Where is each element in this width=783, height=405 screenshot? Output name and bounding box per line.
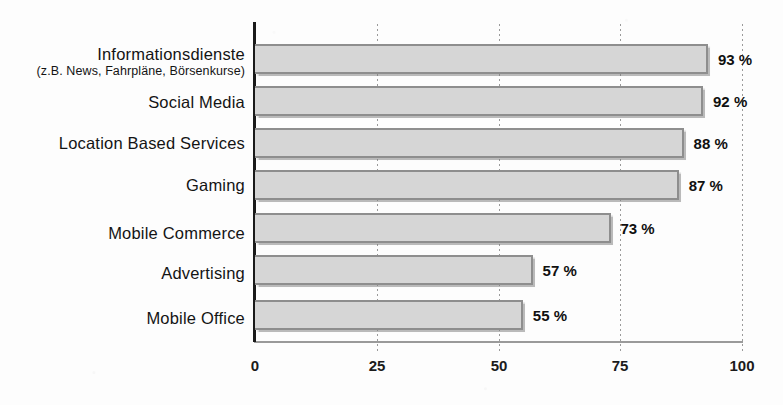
bar-2 xyxy=(255,128,684,158)
bar-value-3: 87 % xyxy=(689,177,723,194)
category-label-1: Social Media xyxy=(148,93,245,111)
xtick-75: 75 xyxy=(612,357,629,374)
bar-value-4: 73 % xyxy=(621,220,655,237)
category-label-6-main: Mobile Office xyxy=(146,309,245,327)
category-label-2-main: Location Based Services xyxy=(59,134,245,152)
bar-4 xyxy=(255,213,611,243)
category-label-0-main: Informationsdienste xyxy=(37,45,245,63)
gridline-100 xyxy=(742,24,743,353)
x-axis-line xyxy=(254,341,743,343)
category-label-0-sub: (z.B. News, Fahrpläne, Börsenkurse) xyxy=(37,64,245,78)
category-label-4-main: Mobile Commerce xyxy=(108,224,245,242)
bar-chart: Informationsdienste (z.B. News, Fahrplän… xyxy=(0,0,783,405)
bar-6 xyxy=(255,300,523,330)
xtick-0: 0 xyxy=(251,357,259,374)
bar-value-5: 57 % xyxy=(543,262,577,279)
xtick-100: 100 xyxy=(729,357,754,374)
category-label-0: Informationsdienste (z.B. News, Fahrplän… xyxy=(37,45,245,78)
bar-value-1: 92 % xyxy=(713,93,747,110)
category-label-6: Mobile Office xyxy=(146,309,245,327)
bar-3 xyxy=(255,170,679,200)
xtick-25: 25 xyxy=(369,357,386,374)
bar-5 xyxy=(255,255,533,285)
bar-value-2: 88 % xyxy=(694,135,728,152)
xtick-50: 50 xyxy=(491,357,508,374)
category-label-5-main: Advertising xyxy=(161,264,245,282)
category-label-5: Advertising xyxy=(161,264,245,282)
bar-value-6: 55 % xyxy=(533,307,567,324)
chart-page: Informationsdienste (z.B. News, Fahrplän… xyxy=(0,0,783,405)
category-label-4: Mobile Commerce xyxy=(108,224,245,242)
category-label-3-main: Gaming xyxy=(186,176,245,194)
bar-1 xyxy=(255,86,703,116)
category-label-2: Location Based Services xyxy=(59,134,245,152)
bar-0 xyxy=(255,44,708,74)
category-label-1-main: Social Media xyxy=(148,93,245,111)
bar-value-0: 93 % xyxy=(718,51,752,68)
category-label-3: Gaming xyxy=(186,176,245,194)
